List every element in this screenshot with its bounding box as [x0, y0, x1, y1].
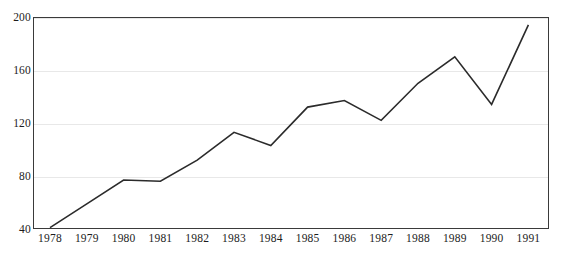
y-tick-label-160: 160: [3, 65, 31, 77]
line-chart: 200 160 120 80 40 1978197919801981198219…: [0, 0, 568, 263]
gridline-80: [34, 177, 548, 178]
x-tick-label-1991: 1991: [506, 233, 550, 245]
x-axis-labels: 1978197919801981198219831984198519861987…: [0, 233, 568, 253]
y-tick-label-200: 200: [3, 12, 31, 24]
y-axis-labels: 200 160 120 80 40: [0, 0, 31, 263]
gridline-200: [34, 18, 548, 19]
gridline-120: [34, 124, 548, 125]
y-tick-label-120: 120: [3, 118, 31, 130]
gridline-160: [34, 71, 548, 72]
y-tick-label-80: 80: [3, 171, 31, 183]
plot-area: [33, 17, 549, 229]
